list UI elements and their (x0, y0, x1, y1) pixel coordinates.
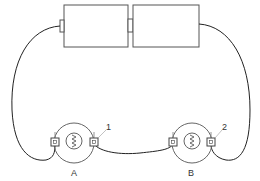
circuit-diagram: A 1 B 2 (0, 0, 260, 181)
battery-left (60, 5, 128, 47)
terminal-2-label: 2 (222, 122, 227, 132)
coil-icon (190, 135, 194, 147)
battery-connector (128, 19, 133, 32)
wire-middle (94, 144, 173, 154)
leader-line-1 (98, 130, 106, 138)
leader-line-2 (215, 130, 222, 138)
motor-b: B 2 (169, 122, 227, 178)
terminal-1-label: 1 (106, 122, 111, 132)
motor-b-label: B (188, 168, 194, 178)
motor-a-label: A (71, 168, 77, 178)
battery-left-terminal (60, 20, 64, 32)
coil-icon (72, 135, 76, 147)
battery-right (133, 5, 199, 47)
